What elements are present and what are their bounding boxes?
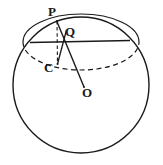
small-circle-front-arc xyxy=(23,42,139,70)
horizontal-chord-line xyxy=(30,41,130,43)
figure-canvas xyxy=(0,0,163,165)
label-point-q: Q xyxy=(65,25,75,38)
sphere-outline-circle xyxy=(13,17,149,153)
geometry-figure: P Q C O xyxy=(0,0,163,165)
point-marker-c xyxy=(57,63,59,65)
small-circle-back-arc xyxy=(23,14,139,42)
segment-p-to-c-dashed xyxy=(57,21,58,64)
label-point-o: O xyxy=(82,86,92,99)
label-point-p: P xyxy=(48,5,56,18)
label-point-c: C xyxy=(44,61,53,74)
point-marker-p xyxy=(56,20,58,22)
